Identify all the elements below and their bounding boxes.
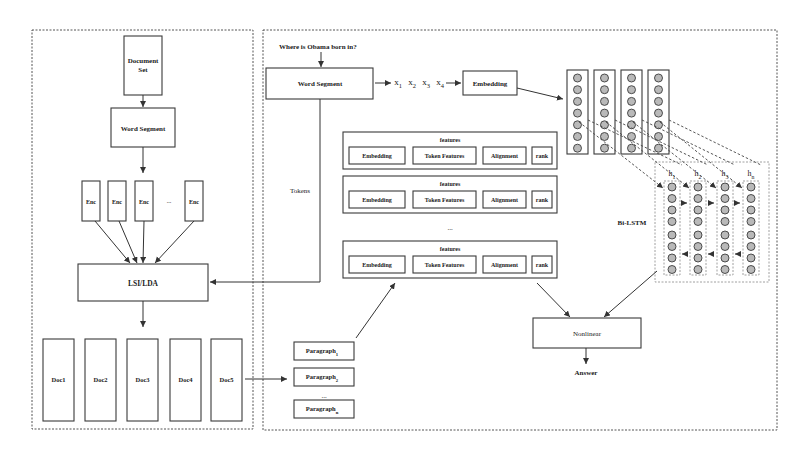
neuron	[668, 231, 676, 239]
neuron	[694, 254, 702, 262]
token-x: x2	[408, 77, 416, 89]
doc-label: Doc4	[178, 376, 193, 383]
neuron	[574, 121, 582, 129]
doc-box: Doc1	[43, 339, 74, 421]
neuron	[721, 206, 729, 214]
feature-item-label: rank	[536, 262, 549, 268]
neuron	[628, 144, 636, 152]
encoder-ellipsis: ...	[167, 198, 172, 204]
feature-item-label: Alignment	[491, 153, 518, 159]
tokens-label: Tokens	[290, 187, 310, 195]
embedding-vector-column	[621, 70, 642, 154]
neuron	[694, 218, 702, 226]
doc-group: Doc1Doc2Doc3Doc4Doc5	[43, 339, 242, 421]
neuron	[628, 109, 636, 117]
nonlinear-label: Nonlinear	[573, 330, 602, 338]
neuron	[574, 109, 582, 117]
neuron	[601, 86, 609, 94]
encoder-box: Enc	[82, 181, 100, 221]
answer-label: Answer	[575, 369, 598, 377]
neuron	[721, 231, 729, 239]
encoder-group: EncEncEncEnc...	[82, 181, 203, 263]
neuron	[747, 195, 755, 203]
diagram-canvas: Document Set Word Segment EncEncEncEnc..…	[0, 0, 809, 457]
neuron	[694, 206, 702, 214]
feature-ellipsis: ...	[447, 224, 453, 232]
neuron	[694, 243, 702, 251]
arrow-encoder-to-lsi-lda	[155, 221, 194, 263]
neuron	[574, 86, 582, 94]
neuron	[747, 266, 755, 274]
paragraph-ellipsis: ...	[321, 392, 327, 400]
feature-group: featuresEmbeddingToken FeaturesAlignment…	[343, 132, 557, 169]
neuron	[747, 254, 755, 262]
neuron	[601, 97, 609, 105]
left-word-segment-box: Word Segment	[111, 108, 175, 147]
feature-item-label: Alignment	[491, 262, 518, 268]
hidden-state-label: hn	[748, 169, 755, 180]
bilstm-column: h1	[664, 169, 680, 275]
doc-label: Doc3	[135, 376, 150, 383]
feature-item-label: Alignment	[491, 197, 518, 203]
doc-label: Doc1	[51, 376, 65, 383]
doc-label: Doc5	[219, 376, 234, 383]
embedding-vector-column	[648, 70, 669, 154]
encoder-label: Enc	[189, 199, 199, 205]
document-set-box: Document Set	[124, 36, 162, 95]
token-sequence: x1x2x3x4	[394, 77, 445, 89]
embedding-vector-column	[594, 70, 615, 154]
neuron	[694, 231, 702, 239]
token-x: x4	[436, 77, 445, 89]
feature-group-title: features	[440, 137, 461, 143]
neuron	[574, 144, 582, 152]
neuron	[747, 218, 755, 226]
diagram: Document Set Word Segment EncEncEncEnc..…	[0, 0, 809, 457]
neuron	[655, 74, 663, 82]
paragraph-box: Paragraphn	[294, 400, 354, 418]
token-x: x3	[422, 77, 430, 89]
bilstm-column: hn	[743, 169, 759, 275]
doc-box: Doc4	[170, 339, 201, 421]
arrow-bilstm-to-nonlinear	[604, 271, 657, 317]
neuron	[601, 74, 609, 82]
embedding-label: Embedding	[473, 80, 508, 88]
arrow-encoder-to-lsi-lda	[143, 221, 144, 263]
neuron	[655, 86, 663, 94]
right-word-segment-label: Word Segment	[298, 80, 343, 88]
feature-group-title: features	[440, 181, 461, 187]
neuron	[694, 183, 702, 191]
neuron	[628, 97, 636, 105]
neuron	[721, 195, 729, 203]
neuron	[574, 133, 582, 141]
neuron	[574, 97, 582, 105]
neuron	[721, 266, 729, 274]
feature-groups: featuresEmbeddingToken FeaturesAlignment…	[343, 132, 557, 278]
feature-item-label: Token Features	[425, 197, 465, 203]
feature-item-label: Embedding	[362, 262, 392, 268]
neuron	[655, 144, 663, 152]
neuron	[721, 183, 729, 191]
question-text: Where is Obama born in?	[279, 43, 357, 51]
lsi-lda-box: LSI/LDA	[78, 264, 208, 301]
neuron	[655, 97, 663, 105]
neuron	[721, 218, 729, 226]
doc-box: Doc3	[127, 339, 158, 421]
left-word-segment-label: Word Segment	[121, 125, 166, 133]
encoder-label: Enc	[112, 199, 122, 205]
neuron	[694, 266, 702, 274]
neuron	[668, 266, 676, 274]
neuron	[668, 218, 676, 226]
bilstm-label: Bi-LSTM	[618, 219, 647, 227]
neuron	[628, 74, 636, 82]
neuron	[747, 243, 755, 251]
embedding-vector-column	[567, 70, 588, 154]
neuron	[601, 109, 609, 117]
encoder-box: Enc	[185, 181, 203, 221]
encoder-label: Enc	[139, 199, 149, 205]
dashed-connection	[669, 120, 761, 165]
hidden-state-label: h1	[669, 169, 676, 180]
lsi-lda-label: LSI/LDA	[128, 279, 159, 288]
nonlinear-box: Nonlinear	[533, 318, 641, 348]
neuron	[574, 74, 582, 82]
feature-group-title: features	[440, 246, 461, 252]
